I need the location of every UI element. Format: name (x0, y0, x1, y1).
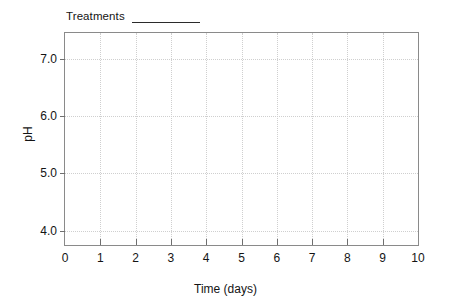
x-axis-tick-label: 9 (379, 252, 386, 264)
x-axis-title: Time (days) (0, 283, 451, 295)
x-axis-tick-label: 4 (203, 252, 210, 264)
y-axis-tick (60, 173, 65, 174)
treatments-blank-line[interactable] (132, 11, 200, 23)
y-axis-tick-label: 6.0 (40, 110, 57, 122)
x-axis-tick (171, 239, 172, 245)
x-axis-tick (242, 239, 243, 245)
y-axis-tick (60, 116, 65, 117)
x-axis-tick (347, 239, 348, 245)
gridline-vertical (136, 33, 137, 245)
x-axis-tick-label: 8 (344, 252, 351, 264)
gridline-vertical (347, 33, 348, 245)
x-axis-tick (100, 239, 101, 245)
y-axis-tick-label: 5.0 (40, 167, 57, 179)
y-axis-title: pH (22, 126, 34, 141)
gridline-vertical (206, 33, 207, 245)
treatments-label: Treatments (66, 9, 125, 23)
treatments-header: Treatments (66, 9, 200, 23)
x-axis-tick-label: 0 (62, 252, 69, 264)
gridline-vertical (383, 33, 384, 245)
x-axis-tick-label: 6 (273, 252, 280, 264)
x-axis-tick-label: 3 (168, 252, 175, 264)
plot-area: 7.06.05.04.0012345678910 (64, 32, 419, 246)
y-axis-tick-label: 7.0 (40, 53, 57, 65)
x-axis-tick-label: 7 (309, 252, 316, 264)
gridline-vertical (100, 33, 101, 245)
x-axis-tick (206, 239, 207, 245)
gridline-vertical (171, 33, 172, 245)
x-axis-tick (383, 239, 384, 245)
x-axis-tick (136, 239, 137, 245)
x-axis-tick (312, 239, 313, 245)
gridline-vertical (242, 33, 243, 245)
x-axis-tick-label: 5 (238, 252, 245, 264)
x-axis-tick-label: 10 (411, 252, 424, 264)
x-axis-tick-label: 2 (132, 252, 139, 264)
y-axis-tick (60, 231, 65, 232)
gridline-vertical (312, 33, 313, 245)
x-axis-tick (277, 239, 278, 245)
y-axis-tick (60, 59, 65, 60)
gridline-vertical (277, 33, 278, 245)
x-axis-tick-label: 1 (97, 252, 104, 264)
y-axis-tick-label: 4.0 (40, 225, 57, 237)
